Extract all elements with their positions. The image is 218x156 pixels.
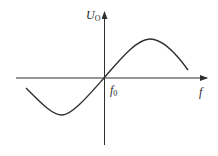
x-axis-label: f (199, 86, 202, 98)
s-curve-diagram (0, 0, 218, 156)
origin-label-f0: f0 (110, 84, 117, 98)
response-curve (26, 39, 188, 115)
y-axis-label: UO (86, 9, 100, 23)
